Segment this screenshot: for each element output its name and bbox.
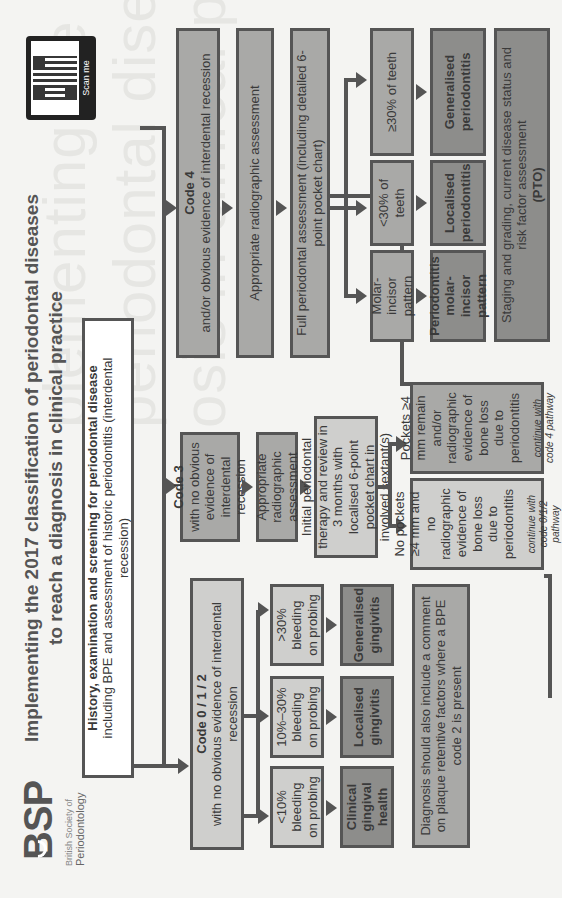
connector — [344, 78, 348, 298]
criterion-molar-incisor: Molar-incisor pattern — [370, 250, 414, 342]
code-012-subtitle: with no obvious evidence of interdental … — [209, 587, 240, 841]
result-generalised-gingivitis: Generalised gingivitis — [340, 584, 394, 666]
criterion-text: ≥30% of teeth — [384, 52, 400, 132]
code-4-subtitle: and/or obvious evidence of interdental r… — [198, 54, 214, 333]
staging-text: Staging and grading, current disease sta… — [499, 37, 530, 333]
arrow-down-icon — [416, 84, 427, 100]
connector — [162, 484, 168, 488]
arrow-down-icon — [326, 617, 337, 633]
connector — [162, 206, 168, 210]
connector — [134, 764, 164, 768]
arrow-down-icon — [416, 195, 427, 211]
staging-box: Staging and grading, current disease sta… — [494, 28, 550, 342]
connector — [162, 128, 166, 768]
result-clinical-gingival-health: Clinical gingival health — [340, 766, 394, 848]
code-3-therapy-box: Initial periodontal therapy and review i… — [314, 416, 378, 558]
result-text: Clinical gingival health — [344, 775, 391, 839]
start-subtitle: including BPE and assessment of historic… — [100, 327, 131, 769]
title-line-2: to reach a diagnosis in clinical practic… — [44, 148, 68, 788]
staging-pto: (PTO) — [530, 167, 546, 202]
arrow-down-icon — [258, 808, 269, 824]
criterion-gte30-teeth: ≥30% of teeth — [370, 28, 414, 156]
radiographic-text: Appropriate radiographic assessment — [247, 85, 263, 300]
page-title: Implementing the 2017 classification of … — [20, 148, 68, 788]
title-line-1: Implementing the 2017 classification of … — [20, 148, 44, 788]
code-4-title: Code 4 — [182, 171, 198, 214]
code-3-subtitle: with no obvious evidence of interdental … — [187, 441, 249, 533]
qr-code-icon — [33, 56, 77, 100]
code-012-box: Code 0 / 1 / 2 with no obvious evidence … — [190, 578, 244, 850]
start-box: History, examination and screening for p… — [82, 318, 134, 778]
arrow-down-icon — [178, 758, 189, 774]
logo-subtitle-2: Periodontology — [74, 796, 86, 866]
arrow-down-icon — [326, 709, 337, 725]
result-generalised-periodontitis: Generalised periodontitis — [430, 28, 486, 156]
criterion-text: <30% of teeth — [376, 169, 407, 237]
outcome-pockets-remain: Pockets ≥4 mm remain and/or radiographic… — [410, 382, 544, 474]
arrow-down-icon — [222, 200, 233, 216]
gingival-criterion-3: >30% bleeding on probing — [270, 584, 324, 666]
code-3-box: Code 3 with no obvious evidence of inter… — [180, 432, 240, 542]
arrow-down-icon — [242, 479, 253, 495]
result-localised-gingivitis: Localised gingivitis — [340, 676, 394, 758]
logo-subtitle-1: British Society of — [64, 796, 74, 866]
arrow-down-icon — [356, 288, 367, 304]
arrow-down-icon — [356, 200, 367, 216]
arrow-down-icon — [258, 602, 269, 618]
result-text: Localised periodontitis — [442, 164, 473, 243]
outcome-note: continue with code 0/1/2 pathway — [526, 487, 562, 561]
criterion-text: Molar-incisor pattern — [369, 259, 416, 333]
qr-scan-label: Scan me — [79, 41, 91, 115]
arrow-down-icon — [416, 288, 427, 304]
criterion-text: <10% bleeding on probing — [274, 775, 321, 839]
arrow-down-icon — [258, 708, 269, 724]
gingival-criterion-1: <10% bleeding on probing — [270, 766, 324, 848]
result-text: Generalised gingivitis — [351, 588, 382, 662]
result-localised-periodontitis: Localised periodontitis — [430, 160, 486, 246]
code-4-radiographic-box: Appropriate radiographic assessment — [236, 28, 274, 358]
arrow-down-icon — [276, 200, 287, 216]
note-text: Diagnosis should also include a comment … — [418, 593, 465, 839]
connector — [548, 574, 552, 698]
full-assessment-text: Full periodontal assessment (including d… — [294, 37, 325, 349]
result-text: Generalised periodontitis — [442, 37, 473, 147]
qr-code[interactable]: Scan me — [26, 36, 96, 120]
outcome-no-pockets: No pockets ≥4 mm and no radiographic evi… — [410, 478, 544, 570]
bsp-logo: BSP British Society of Periodontology — [18, 796, 86, 866]
full-assessment-box: Full periodontal assessment (including d… — [290, 28, 330, 358]
result-text: Periodontitis molar-incisor pattern — [427, 256, 489, 335]
outcome-note: continue with code 4 pathway — [532, 391, 556, 465]
code-3-title: Code 3 — [171, 465, 187, 508]
criterion-text: >30% bleeding on probing — [274, 593, 321, 657]
arrow-down-icon — [326, 800, 337, 816]
outcome-text: Pockets ≥4 mm remain and/or radiographic… — [398, 391, 523, 465]
criterion-lt30-teeth: <30% of teeth — [370, 160, 414, 246]
arrow-down-icon — [356, 72, 367, 88]
start-title: History, examination and screening for p… — [85, 365, 101, 730]
outcome-text: No pockets ≥4 mm and no radiographic evi… — [392, 487, 517, 561]
gingival-criterion-2: 10%–30% bleeding on probing — [270, 676, 324, 758]
result-molar-incisor-periodontitis: Periodontitis molar-incisor pattern — [430, 250, 486, 342]
code-3-radiographic-box: Appropriate radiographic assessment — [256, 432, 298, 542]
code-012-title: Code 0 / 1 / 2 — [194, 674, 210, 753]
code-4-box: Code 4 and/or obvious evidence of interd… — [176, 28, 220, 358]
connector — [140, 126, 166, 130]
radiographic-text: Appropriate radiographic assessment — [254, 441, 301, 533]
plaque-note-box: Diagnosis should also include a comment … — [412, 584, 470, 848]
